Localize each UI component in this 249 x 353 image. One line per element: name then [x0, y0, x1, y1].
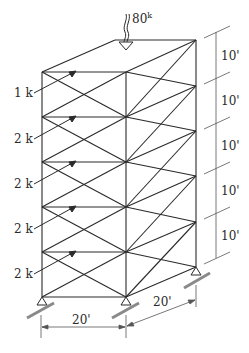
story-height-5: 10' [221, 229, 240, 243]
truss-diagram: 80k 1 k 2 k 2 k 2 k 2 k 10' 10' 10' 10' … [0, 0, 249, 353]
truss-members [42, 40, 196, 297]
load-label-5: 2 k [14, 267, 33, 281]
top-load-arrow-icon [119, 14, 133, 50]
load-label-3: 2 k [14, 177, 33, 191]
load-label-2: 2 k [14, 132, 33, 146]
base-width-label: 20' [72, 313, 91, 327]
base-depth-label: 20' [153, 295, 172, 309]
story-height-4: 10' [221, 184, 240, 198]
story-height-1: 10' [221, 49, 240, 63]
load-label-1: 1 k [14, 86, 33, 100]
story-height-3: 10' [221, 139, 240, 153]
lateral-load-arrows [34, 71, 76, 274]
story-height-2: 10' [221, 94, 240, 108]
load-label-4: 2 k [14, 222, 33, 236]
top-load-label: 80k [132, 11, 152, 26]
